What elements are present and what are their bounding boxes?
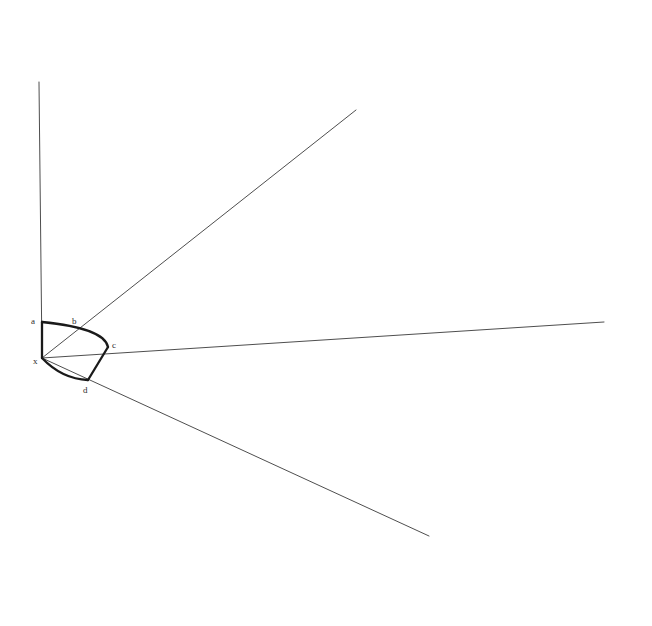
ray-up-vertical bbox=[39, 82, 42, 358]
geometry-figure bbox=[0, 0, 652, 626]
point-label-b: b bbox=[72, 317, 77, 326]
ray-lower-right bbox=[42, 358, 429, 536]
point-label-c: c bbox=[112, 341, 116, 350]
point-label-a: a bbox=[31, 317, 35, 326]
segment-c-to-d bbox=[88, 347, 108, 380]
ray-horizontal-right bbox=[42, 322, 604, 358]
point-label-d: d bbox=[83, 386, 88, 395]
point-label-x: x bbox=[33, 357, 38, 366]
diagram-canvas: a b c d x bbox=[0, 0, 652, 626]
ray-upper-right bbox=[42, 110, 356, 358]
